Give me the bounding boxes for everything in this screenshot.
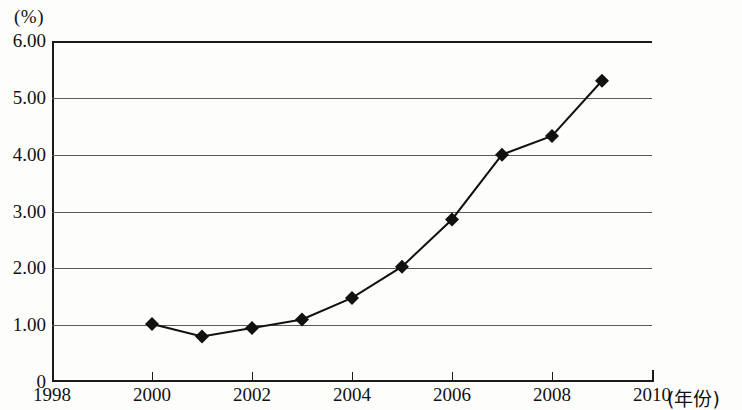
x-axis-tick-mark [652, 370, 654, 381]
series-line [152, 81, 602, 337]
x-axis-tick-label: 2000 [133, 384, 171, 406]
x-axis-tick-label: 2008 [533, 384, 571, 406]
data-series [52, 41, 652, 382]
y-axis-tick-label: 6.00 [0, 30, 46, 52]
data-point-marker [145, 317, 159, 331]
chart-figure: (%) 01.002.003.004.005.006.00 1998200020… [0, 0, 742, 410]
x-axis-title: (年份) [667, 384, 720, 410]
x-axis-tick-label: 1998 [33, 384, 71, 406]
y-axis-tick-label: 5.00 [0, 87, 46, 109]
y-axis-tick-label: 4.00 [0, 144, 46, 166]
data-point-marker [345, 291, 359, 305]
data-point-marker [245, 321, 259, 335]
y-axis-tick-label: 2.00 [0, 257, 46, 279]
x-axis-tick-label: 2010 [633, 384, 671, 406]
x-axis-tick-labels: 1998200020022004200620082010 [0, 384, 742, 410]
x-axis-tick-label: 2006 [433, 384, 471, 406]
y-axis-tick-labels: 01.002.003.004.005.006.00 [0, 0, 46, 410]
x-axis-tick-label: 2002 [233, 384, 271, 406]
x-axis-tick-label: 2004 [333, 384, 371, 406]
y-axis-tick-label: 1.00 [0, 314, 46, 336]
data-point-marker [195, 330, 209, 344]
plot-area [52, 41, 652, 382]
data-point-marker [295, 312, 309, 326]
y-axis-tick-label: 3.00 [0, 201, 46, 223]
